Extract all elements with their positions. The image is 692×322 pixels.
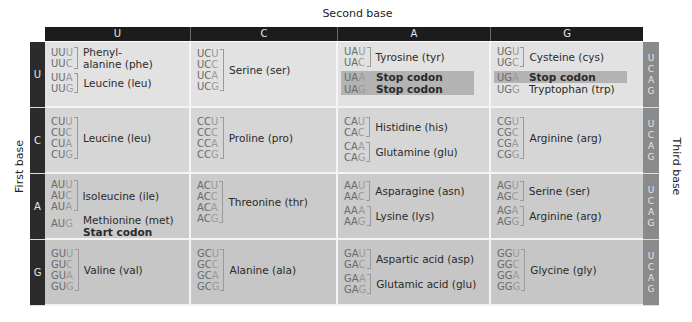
row-c: CUU CUC CUA CUG Leucine (leu) CCU CCC CC… bbox=[45, 108, 643, 174]
stop-codon-row: UAG Stop codon bbox=[341, 83, 474, 95]
bracket-icon bbox=[74, 180, 78, 211]
third-base-c: C bbox=[648, 262, 654, 273]
bracket-icon bbox=[521, 249, 525, 291]
third-base-group: UCAG bbox=[643, 174, 659, 240]
codon-grid: UUU UUC Phenyl-alanine (phe) UUA UUG Leu… bbox=[45, 42, 643, 306]
codon-group-his: CAU CAC Histidine (his) bbox=[344, 116, 489, 138]
third-base-column: UCAG UCAG UCAG UCAG bbox=[643, 42, 659, 306]
bracket-icon bbox=[74, 73, 78, 93]
cell-ua: UAU UAC Tyrosine (tyr) UAA Stop codon UA… bbox=[338, 42, 491, 106]
bracket-icon bbox=[367, 47, 371, 67]
third-base-c: C bbox=[648, 64, 654, 75]
bracket-icon bbox=[367, 206, 371, 226]
cell-gc: GCU GCC GCA GCG Alanine (ala) bbox=[191, 240, 338, 304]
bracket-icon bbox=[74, 117, 78, 159]
bracket-icon bbox=[366, 142, 370, 162]
codon-group-asn: AAU AAC Asparagine (asn) bbox=[344, 180, 489, 202]
second-base-header-row: U C A G bbox=[45, 27, 643, 41]
third-base-label: Third base bbox=[670, 132, 683, 202]
third-base-c: C bbox=[648, 196, 654, 207]
first-base-g: G bbox=[30, 240, 45, 306]
codon-group-val: GUU GUC GUA GUG Valine (val) bbox=[51, 248, 189, 292]
third-base-u: U bbox=[648, 185, 655, 196]
third-base-group: UCAG bbox=[643, 42, 659, 108]
third-base-g: G bbox=[648, 284, 655, 295]
cell-cu: CUU CUC CUA CUG Leucine (leu) bbox=[45, 108, 191, 172]
amino-acid-label: Arginine (arg) bbox=[529, 210, 601, 222]
bracket-icon bbox=[366, 117, 370, 137]
header-c: C bbox=[191, 27, 338, 41]
codon-group-leu: CUU CUC CUA CUG Leucine (leu) bbox=[51, 116, 189, 160]
bracket-icon bbox=[219, 181, 223, 223]
amino-acid-label: Cysteine (cys) bbox=[529, 51, 604, 63]
amino-acid-label: Proline (pro) bbox=[229, 132, 293, 144]
first-base-a: A bbox=[30, 174, 45, 240]
amino-acid-label: Valine (val) bbox=[84, 264, 143, 276]
third-base-a: A bbox=[648, 75, 654, 86]
codon-group-asp: GAU GAC Aspartic acid (asp) bbox=[344, 248, 489, 270]
amino-acid-label: Leucine (leu) bbox=[83, 132, 151, 144]
bracket-icon bbox=[520, 47, 524, 67]
third-base-group: UCAG bbox=[643, 108, 659, 174]
header-g: G bbox=[491, 27, 643, 41]
amino-acid-label: Alanine (ala) bbox=[229, 264, 296, 276]
cell-gg: GGU GGC GGA GGG Glycine (gly) bbox=[491, 240, 643, 304]
amino-acid-label: Threonine (thr) bbox=[228, 196, 307, 208]
codon-group-thr: ACU ACC ACA ACG Threonine (thr) bbox=[197, 180, 336, 224]
codon-group-phe: UUU UUC Phenyl-alanine (phe) bbox=[51, 46, 189, 70]
third-base-a: A bbox=[648, 141, 654, 152]
third-base-g: G bbox=[648, 86, 655, 97]
cell-ac: ACU ACC ACA ACG Threonine (thr) bbox=[191, 174, 338, 238]
codon-row-met: AUG Methionine (met) Start codon bbox=[51, 214, 189, 238]
row-a: AUU AUC AUA Isoleucine (ile) AUG Methion… bbox=[45, 174, 643, 240]
bracket-icon bbox=[74, 47, 78, 69]
cell-uu: UUU UUC Phenyl-alanine (phe) UUA UUG Leu… bbox=[45, 42, 191, 106]
amino-acid-label: Serine (ser) bbox=[529, 185, 590, 197]
third-base-u: U bbox=[648, 251, 655, 262]
amino-acid-label: Leucine (leu) bbox=[83, 77, 151, 89]
first-base-column: U C A G bbox=[30, 42, 45, 306]
first-base-u: U bbox=[30, 42, 45, 108]
codon-group-gly: GGU GGC GGA GGG Glycine (gly) bbox=[497, 248, 643, 292]
codon-group-tyr: UAU UAC Tyrosine (tyr) bbox=[344, 46, 489, 68]
bracket-icon bbox=[220, 117, 224, 159]
cell-ca: CAU CAC Histidine (his) CAA CAG Glutamin… bbox=[338, 108, 491, 172]
row-u: UUU UUC Phenyl-alanine (phe) UUA UUG Leu… bbox=[45, 42, 643, 108]
codon-group-lys: AAA AAG Lysine (lys) bbox=[344, 205, 489, 227]
bracket-icon bbox=[520, 181, 524, 201]
cell-au: AUU AUC AUA Isoleucine (ile) AUG Methion… bbox=[45, 174, 191, 238]
first-base-label: First base bbox=[13, 132, 26, 202]
amino-acid-label: Lysine (lys) bbox=[376, 210, 435, 222]
cell-ag: AGU AGC Serine (ser) AGA AGG Arginine (a… bbox=[491, 174, 643, 238]
bracket-icon bbox=[367, 274, 371, 294]
codon-group-ser: AGU AGC Serine (ser) bbox=[497, 180, 643, 202]
header-a: A bbox=[338, 27, 491, 41]
third-base-g: G bbox=[648, 218, 655, 229]
stop-codon-row: UAA Stop codon bbox=[341, 71, 474, 83]
codon-group-arg: CGU CGC CGA CGG Arginine (arg) bbox=[497, 116, 643, 160]
bracket-icon bbox=[367, 249, 371, 269]
stop-codon-row: UGA Stop codon bbox=[494, 71, 627, 83]
amino-acid-label: Glutamic acid (glu) bbox=[376, 278, 476, 290]
cell-cc: CCU CCC CCA CCG Proline (pro) bbox=[191, 108, 338, 172]
amino-acid-label: Phenyl-alanine (phe) bbox=[83, 46, 153, 70]
amino-acid-label: Isoleucine (ile) bbox=[83, 190, 160, 202]
amino-acid-label: Aspartic acid (asp) bbox=[376, 253, 474, 265]
cell-cg: CGU CGC CGA CGG Arginine (arg) bbox=[491, 108, 643, 172]
codon-group-ile: AUU AUC AUA Isoleucine (ile) bbox=[51, 179, 189, 212]
bracket-icon bbox=[220, 49, 224, 91]
amino-acid-label: Tyrosine (tyr) bbox=[376, 51, 445, 63]
cell-gu: GUU GUC GUA GUG Valine (val) bbox=[45, 240, 191, 304]
amino-acid-label: Glycine (gly) bbox=[530, 264, 596, 276]
amino-acid-label: Serine (ser) bbox=[229, 64, 290, 76]
amino-acid-label: Arginine (arg) bbox=[529, 132, 601, 144]
bracket-icon bbox=[220, 249, 224, 291]
codon-group-leu: UUA UUG Leucine (leu) bbox=[51, 72, 189, 94]
bracket-icon bbox=[520, 206, 524, 226]
third-base-a: A bbox=[648, 207, 654, 218]
codon-group-ser: UCU UCC UCA UCG Serine (ser) bbox=[197, 48, 336, 92]
row-g: GUU GUC GUA GUG Valine (val) GCU GCC GCA… bbox=[45, 240, 643, 306]
third-base-u: U bbox=[648, 53, 655, 64]
cell-ga: GAU GAC Aspartic acid (asp) GAA GAG Glut… bbox=[338, 240, 491, 304]
codon-group-gln: CAA CAG Glutamine (glu) bbox=[344, 141, 489, 163]
